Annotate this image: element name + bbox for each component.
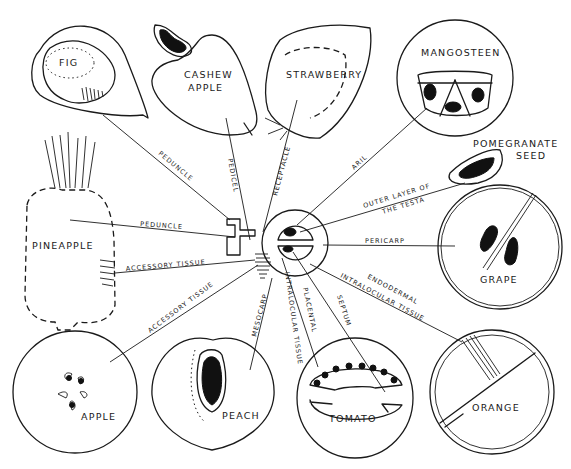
grape-label: GRAPE: [480, 274, 518, 285]
tissue-label-apple-accessory: ACCESSORY TISSUE: [146, 280, 215, 335]
orange-label: ORANGE: [472, 402, 520, 413]
tissue-label-cashew-pedicel: PEDICEL: [226, 158, 240, 193]
center-ovary-diagram: [227, 210, 328, 278]
peach-drawing: PEACH: [152, 338, 274, 450]
strawberry-drawing: STRAWBERRY: [265, 25, 371, 140]
apple-label: APPLE: [81, 411, 116, 422]
pomegranate-label-line2: SEED: [516, 150, 546, 161]
cashew-label-line1: CASHEW: [184, 69, 233, 80]
tissue-label-tomato-septum: SEPTUM: [335, 294, 353, 327]
pineapple-drawing: PINEAPPLE: [25, 132, 115, 330]
mangosteen-drawing: MANGOSTEEN: [397, 20, 513, 136]
pomegranate-seed-drawing: POMEGRANATE SEED: [449, 138, 558, 184]
strawberry-label: STRAWBERRY: [286, 69, 362, 80]
apple-drawing: APPLE: [13, 331, 137, 453]
tissue-label-tomato-intralocular: INTRALOCULAR TISSUE: [283, 271, 304, 365]
tomato-label: TOMATO: [328, 413, 377, 424]
tissue-label-strawberry-receptacle: RECEPTACLE: [271, 145, 292, 197]
tissue-label-pineapple-accessory: ACCESSORY TISSUE: [125, 258, 205, 273]
tissue-label-tomato-placental: PLACENTAL: [301, 287, 318, 334]
tissue-label-pineapple-peduncle: PEDUNCLE: [140, 220, 183, 231]
tissue-label-fig-peduncle: PEDUNCLE: [157, 149, 195, 183]
leader-lines: [70, 100, 465, 392]
cashew-apple-drawing: CASHEW APPLE: [152, 25, 257, 135]
pineapple-label: PINEAPPLE: [32, 240, 94, 251]
grape-drawing: GRAPE: [438, 185, 562, 309]
hatched-accessory-tissue: [255, 254, 271, 278]
cashew-label-line2: APPLE: [188, 82, 223, 93]
fig-drawing: FIG: [32, 26, 148, 118]
tomato-drawing: TOMATO: [297, 338, 413, 458]
peach-label: PEACH: [222, 410, 260, 421]
pomegranate-label-line1: POMEGRANATE: [473, 138, 558, 149]
tissue-labels: PEDUNCLE PEDICEL RECEPTACLE ARIL OUTER L…: [125, 145, 431, 365]
orange-drawing: ORANGE: [430, 330, 554, 454]
fig-label: FIG: [59, 57, 78, 68]
mangosteen-label: MANGOSTEEN: [421, 47, 501, 58]
tissue-label-grape-pericarp: PERICARP: [365, 237, 405, 245]
fruit-tissue-diagram: FIG CASHEW APPLE STRAWBERRY MANGOSTEEN P…: [0, 0, 571, 469]
